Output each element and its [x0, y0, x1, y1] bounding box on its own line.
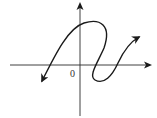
coordinate-diagram: 0	[0, 0, 157, 118]
s-curve	[42, 21, 139, 81]
origin-label: 0	[70, 68, 75, 79]
